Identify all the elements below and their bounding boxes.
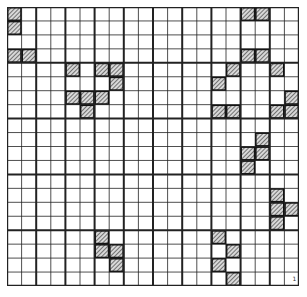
hatched-cell [81,105,94,118]
hatched-cell [95,245,108,258]
hatched-cell [270,63,283,76]
hatched-grid-diagram [7,7,299,286]
hatched-cell [95,231,108,244]
hatched-cell [270,203,283,216]
hatched-cell [285,91,298,104]
hatched-cell [256,133,269,146]
hatched-cell [110,77,123,90]
hatched-cell [227,273,240,286]
hatched-cell [95,63,108,76]
hatched-cell [256,147,269,160]
hatched-cell [212,259,225,272]
hatched-cell [81,91,94,104]
hatched-cell [270,189,283,202]
hatched-cell [241,49,254,62]
hatched-cell [241,8,254,21]
hatched-cell [285,203,298,216]
hatched-cell [110,63,123,76]
hatched-cell [212,105,225,118]
hatched-cell [212,231,225,244]
hatched-cell [270,217,283,230]
hatched-cell [110,259,123,272]
hatched-cell [285,105,298,118]
hatched-cell [95,91,108,104]
hatched-cell [22,49,35,62]
hatched-cell [256,49,269,62]
corner-number-label: 1 [292,276,296,282]
grid-canvas [7,7,299,286]
hatched-cell [8,8,21,21]
hatched-cell [212,77,225,90]
hatched-cell [241,161,254,174]
hatched-cell [66,63,79,76]
hatched-cell [227,63,240,76]
hatched-cell [66,91,79,104]
hatched-cell [227,105,240,118]
hatched-cell [110,245,123,258]
hatched-cell [241,147,254,160]
hatched-cell [270,105,283,118]
hatched-cell [227,245,240,258]
hatched-cell [8,22,21,35]
hatched-cell [256,8,269,21]
hatched-cell [8,49,21,62]
